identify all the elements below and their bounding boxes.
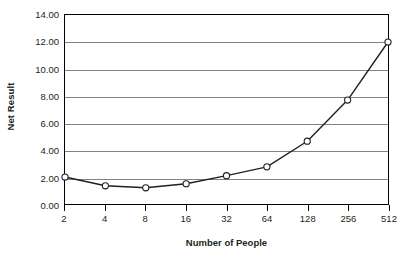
x-axis-tick xyxy=(186,205,187,211)
x-axis-ticks xyxy=(64,205,389,212)
x-axis-tick-label: 64 xyxy=(262,213,273,224)
y-axis-tick-label: 10.00 xyxy=(35,63,59,74)
data-point-marker xyxy=(304,138,310,144)
y-axis-tick-label: 8.00 xyxy=(41,90,60,101)
x-axis-tick-label: 4 xyxy=(102,213,107,224)
series-net-result xyxy=(65,15,388,204)
x-axis-tick xyxy=(105,205,106,211)
y-axis-tick-label: 4.00 xyxy=(41,145,60,156)
y-axis-title-label: Net Result xyxy=(6,82,17,130)
x-axis-tick xyxy=(348,205,349,211)
x-axis-tick-labels: 248163264128256512 xyxy=(64,213,389,229)
y-axis-tick-labels: 0.002.004.006.008.0010.0012.0014.00 xyxy=(22,8,64,208)
x-axis-tick-label: 16 xyxy=(181,213,192,224)
y-axis-tick-label: 0.00 xyxy=(41,200,60,211)
series-line xyxy=(65,42,388,188)
data-point-marker xyxy=(183,181,189,187)
x-axis-tick-label: 512 xyxy=(381,213,397,224)
data-point-marker xyxy=(345,97,351,103)
data-point-marker xyxy=(385,39,391,45)
x-axis-title: Number of People xyxy=(64,237,389,248)
plot-area xyxy=(64,14,389,205)
x-axis-tick xyxy=(64,205,65,211)
data-point-marker xyxy=(62,174,68,180)
y-axis-tick-label: 14.00 xyxy=(35,9,59,20)
y-axis-tick-label: 2.00 xyxy=(41,172,60,183)
data-point-marker xyxy=(223,173,229,179)
x-axis-tick xyxy=(227,205,228,211)
x-axis-tick xyxy=(389,205,390,211)
x-axis-tick-label: 32 xyxy=(221,213,232,224)
x-axis-tick-label: 128 xyxy=(300,213,316,224)
line-chart: Net Result 0.002.004.006.008.0010.0012.0… xyxy=(0,0,407,272)
data-point-marker xyxy=(264,164,270,170)
data-point-marker xyxy=(102,183,108,189)
y-axis-tick-label: 6.00 xyxy=(41,118,60,129)
x-axis-tick-label: 8 xyxy=(143,213,148,224)
y-axis-title: Net Result xyxy=(0,0,22,212)
x-axis-tick xyxy=(308,205,309,211)
y-axis-tick-label: 12.00 xyxy=(35,36,59,47)
data-point-marker xyxy=(143,185,149,191)
x-axis-tick xyxy=(145,205,146,211)
x-axis-tick xyxy=(267,205,268,211)
x-axis-tick-label: 2 xyxy=(61,213,66,224)
x-axis-tick-label: 256 xyxy=(340,213,356,224)
